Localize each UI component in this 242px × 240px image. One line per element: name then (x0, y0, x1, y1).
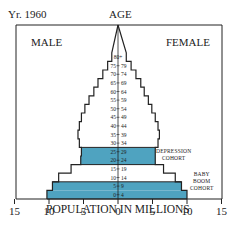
x-axis-label: POPULATION IN MILLIONS (46, 203, 190, 215)
svg-text:24: 24 (121, 157, 127, 163)
svg-text:49: 49 (121, 114, 127, 120)
svg-text:25: 25 (111, 149, 117, 155)
svg-text:19: 19 (121, 166, 127, 172)
svg-text:79: 79 (121, 63, 127, 69)
svg-text:9: 9 (121, 183, 124, 189)
svg-text:10: 10 (111, 175, 117, 181)
svg-text:80+: 80+ (114, 54, 123, 60)
svg-text:55: 55 (111, 97, 117, 103)
svg-text:39: 39 (121, 132, 127, 138)
svg-text:69: 69 (121, 80, 127, 86)
svg-text:15: 15 (9, 205, 21, 217)
svg-text:0: 0 (113, 192, 116, 198)
svg-text:20: 20 (111, 157, 117, 163)
svg-text:59: 59 (121, 97, 127, 103)
svg-text:70: 70 (111, 71, 117, 77)
svg-text:14: 14 (121, 175, 127, 181)
svg-text:44: 44 (121, 123, 127, 129)
svg-text:40: 40 (111, 123, 117, 129)
svg-text:65: 65 (111, 80, 117, 86)
baby-boom-cohort-label: BABY BOOM COHORT (190, 171, 213, 192)
svg-text:74: 74 (121, 71, 127, 77)
svg-text:4: 4 (121, 192, 124, 198)
svg-text:75: 75 (111, 63, 117, 69)
svg-text:30: 30 (111, 140, 117, 146)
svg-text:54: 54 (121, 106, 127, 112)
depression-cohort-label: DEPRESSION COHORT (156, 148, 191, 162)
svg-text:35: 35 (111, 132, 117, 138)
svg-text:29: 29 (121, 149, 127, 155)
svg-text:15: 15 (216, 205, 228, 217)
svg-text:64: 64 (121, 89, 127, 95)
svg-text:34: 34 (121, 140, 127, 146)
svg-text:60: 60 (111, 89, 117, 95)
svg-text:50: 50 (111, 106, 117, 112)
svg-text:5: 5 (113, 183, 116, 189)
bars (47, 25, 187, 199)
svg-text:45: 45 (111, 114, 117, 120)
svg-text:15: 15 (111, 166, 117, 172)
